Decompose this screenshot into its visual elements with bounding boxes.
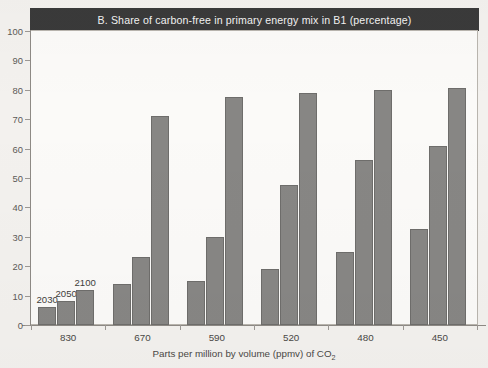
x-tick-label-670: 670 — [134, 332, 150, 343]
x-tick-label-480: 480 — [357, 332, 373, 343]
x-tick-label-830: 830 — [60, 332, 76, 343]
series-annotation-2050: 2050 — [55, 288, 76, 299]
series-annotation-2100: 2100 — [74, 277, 95, 288]
bar-2050-450 — [429, 146, 447, 325]
bars-layer: 203020502100 — [31, 31, 477, 325]
y-tick-label: 100 — [0, 26, 23, 37]
bar-2050-670 — [132, 257, 150, 325]
bar-2050-480 — [355, 160, 373, 325]
y-tick-label: 20 — [0, 261, 23, 272]
x-tick-mark — [328, 325, 329, 330]
bar-group — [187, 31, 243, 325]
bar-group — [410, 31, 466, 325]
bar-2030-590 — [187, 281, 205, 325]
y-tick-mark — [25, 325, 30, 326]
y-tick-mark — [25, 266, 30, 267]
y-tick-label: 60 — [0, 143, 23, 154]
x-tick-mark — [180, 325, 181, 330]
y-tick-label: 70 — [0, 114, 23, 125]
bar-2100-670 — [151, 116, 169, 325]
x-tick-mark — [477, 325, 478, 330]
y-tick-mark — [25, 237, 30, 238]
chart-title-banner: B. Share of carbon-free in primary energ… — [30, 8, 479, 31]
bar-2030-450 — [410, 229, 428, 325]
x-tick-mark — [105, 325, 106, 330]
y-tick-label: 10 — [0, 290, 23, 301]
y-tick-mark — [25, 178, 30, 179]
y-tick-mark — [25, 149, 30, 150]
bar-2050-830 — [57, 301, 75, 325]
y-tick-label: 0 — [0, 320, 23, 331]
x-axis-title-subscript: 2 — [332, 353, 336, 362]
y-tick-mark — [25, 296, 30, 297]
x-tick-mark — [31, 325, 32, 330]
bar-2100-480 — [374, 90, 392, 325]
chart-title-text: B. Share of carbon-free in primary energ… — [97, 14, 411, 26]
bar-2100-450 — [448, 88, 466, 325]
y-tick-mark — [25, 90, 30, 91]
bar-2030-520 — [261, 269, 279, 325]
x-tick-label-590: 590 — [209, 332, 225, 343]
bar-2100-830 — [76, 290, 94, 325]
y-tick-mark — [25, 60, 30, 61]
chart-figure: B. Share of carbon-free in primary energ… — [0, 0, 488, 368]
y-tick-mark — [25, 119, 30, 120]
bar-group: 203020502100 — [38, 31, 94, 325]
y-tick-mark — [25, 31, 30, 32]
bar-2030-480 — [336, 252, 354, 326]
y-tick-label: 80 — [0, 84, 23, 95]
bar-2050-590 — [206, 237, 224, 325]
bar-group — [261, 31, 317, 325]
bar-2100-520 — [299, 93, 317, 325]
y-tick-mark — [25, 207, 30, 208]
x-axis-title: Parts per million by volume (ppmv) of CO… — [0, 348, 488, 362]
bar-2030-830 — [38, 307, 56, 325]
x-axis-title-text: Parts per million by volume (ppmv) of CO — [152, 348, 331, 359]
x-tick-mark — [254, 325, 255, 330]
bar-group — [113, 31, 169, 325]
y-tick-label: 90 — [0, 55, 23, 66]
x-tick-label-520: 520 — [283, 332, 299, 343]
bar-group — [336, 31, 392, 325]
x-tick-label-450: 450 — [432, 332, 448, 343]
bar-2100-590 — [225, 97, 243, 325]
y-tick-label: 30 — [0, 231, 23, 242]
y-tick-label: 40 — [0, 202, 23, 213]
y-tick-label: 50 — [0, 173, 23, 184]
bar-2030-670 — [113, 284, 131, 325]
x-tick-mark — [403, 325, 404, 330]
bar-2050-520 — [280, 185, 298, 325]
